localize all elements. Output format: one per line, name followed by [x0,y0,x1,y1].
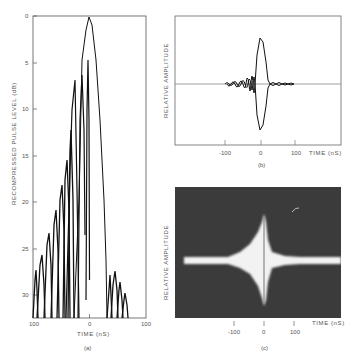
panel-c-trace [0,0,354,355]
panel-c-caption: (c) [261,345,268,351]
panel-c-xtick-neg100: -100 [228,329,240,335]
panel-c-xlabel: TIME (nS) [312,320,345,326]
panel-c-ylabel: RELATIVE AMPLITUDE [163,225,169,300]
panel-c-xtick-zero: 0 [262,329,265,335]
panel-c-xtick-100: 100 [290,329,300,335]
